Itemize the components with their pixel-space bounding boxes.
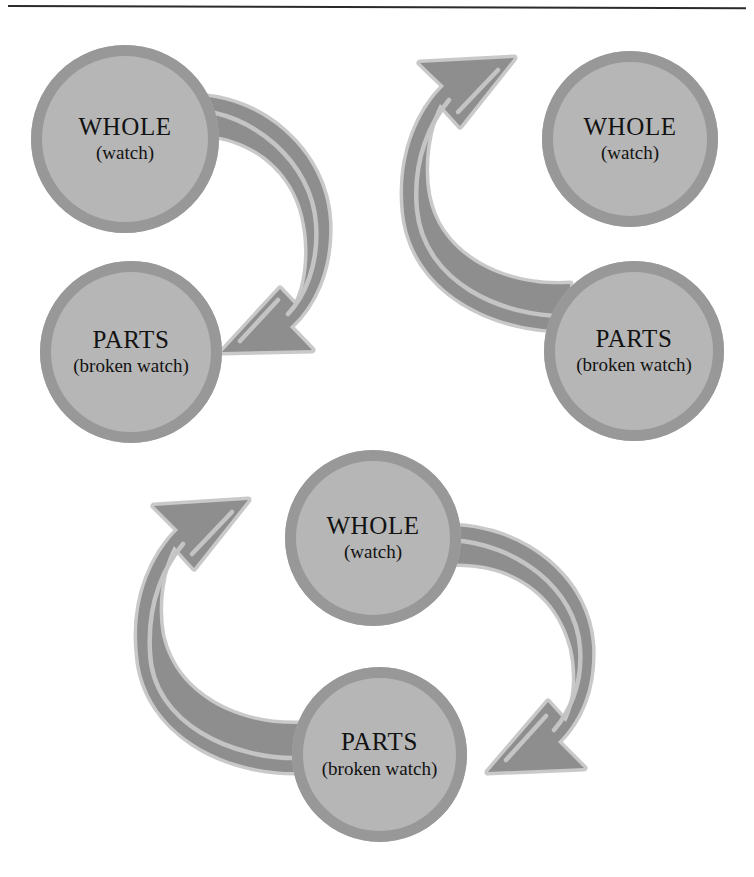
node-subtitle: (watch) [344, 541, 402, 563]
node-title: WHOLE [583, 114, 676, 140]
node-whole[interactable]: WHOLE (watch) [285, 450, 461, 626]
node-subtitle: (watch) [601, 142, 659, 164]
node-title: PARTS [341, 729, 418, 755]
arrow-parts-to-whole-left [137, 500, 300, 772]
panel-whole-parts-cycle: WHOLE (watch) PARTS (broken watch) [0, 430, 754, 877]
node-subtitle: (broken watch) [73, 355, 189, 377]
node-parts[interactable]: PARTS (broken watch) [40, 261, 222, 443]
node-title: WHOLE [78, 114, 171, 140]
node-subtitle: (watch) [96, 142, 154, 164]
node-subtitle: (broken watch) [576, 354, 692, 376]
node-title: PARTS [595, 326, 672, 352]
node-whole[interactable]: WHOLE (watch) [31, 45, 219, 233]
node-title: WHOLE [326, 513, 419, 539]
node-title: PARTS [92, 327, 169, 353]
panel-whole-to-parts: WHOLE (watch) PARTS (broken watch) [0, 0, 380, 450]
node-parts[interactable]: PARTS (broken watch) [544, 261, 724, 441]
node-subtitle: (broken watch) [322, 758, 438, 780]
node-parts[interactable]: PARTS (broken watch) [292, 667, 467, 842]
node-whole[interactable]: WHOLE (watch) [542, 51, 718, 227]
arrow-whole-to-parts-right [448, 526, 592, 772]
panel-parts-to-whole: WHOLE (watch) PARTS (broken watch) [374, 0, 754, 450]
figure-canvas: WHOLE (watch) PARTS (broken watch) WHOLE… [0, 0, 754, 877]
